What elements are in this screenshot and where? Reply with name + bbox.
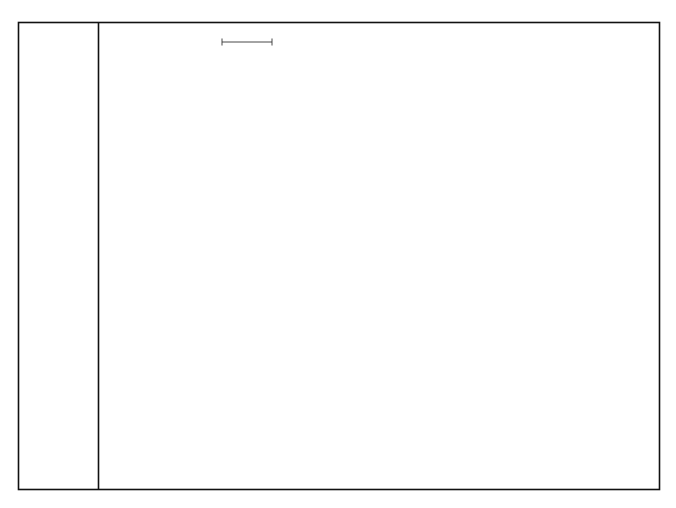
recording-canvas (0, 0, 676, 508)
scale-bar-200ms (222, 39, 272, 46)
outer-frame (19, 23, 660, 490)
electrogram-recording (0, 0, 676, 508)
